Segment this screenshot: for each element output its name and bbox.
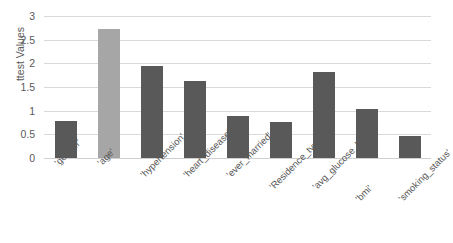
y-tick-label: 0 <box>29 152 35 164</box>
bar <box>141 66 163 158</box>
bar <box>399 136 421 158</box>
bar-series <box>44 16 431 158</box>
bar-slot <box>388 16 431 158</box>
bar <box>270 122 292 158</box>
bar-slot <box>44 16 87 158</box>
y-tick-label: 3 <box>29 10 35 22</box>
y-axis-tick-labels: 32.521.510.50 <box>0 16 40 158</box>
bar-slot <box>87 16 130 158</box>
y-tick-label: 2 <box>29 57 35 69</box>
y-tick-label: 1.5 <box>20 81 35 93</box>
y-tick-label: 1 <box>29 105 35 117</box>
bar <box>184 81 206 158</box>
x-tick-label: 'bmi' <box>353 183 374 204</box>
bar <box>98 29 120 158</box>
y-tick-label: 2.5 <box>20 34 35 46</box>
plot-area <box>44 16 431 158</box>
bar-slot <box>130 16 173 158</box>
y-tick-label: 0.5 <box>20 128 35 140</box>
x-axis-tick-labels: 'gender''age''hypertension''heart_diseas… <box>44 158 431 243</box>
bar-slot <box>302 16 345 158</box>
